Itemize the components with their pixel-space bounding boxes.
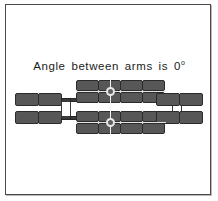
lower-revolute-joint: [106, 118, 115, 127]
caption-text: Angle between arms is 0: [33, 60, 181, 72]
core-block: [120, 123, 143, 134]
core-block: [120, 92, 143, 103]
left-arm-block: [38, 93, 62, 106]
mechanism-diagram: [6, 79, 212, 143]
left-connector-block: [61, 101, 71, 117]
core-block: [142, 123, 165, 134]
right-arm-block: [156, 93, 180, 106]
figure-caption: Angle between arms is 0o: [6, 59, 212, 72]
right-arm-block: [179, 93, 203, 106]
right-arm-block: [179, 111, 203, 124]
left-arm-block: [15, 93, 39, 106]
horizontal-axis-line: [76, 122, 166, 123]
core-block: [142, 80, 165, 91]
figure-panel: Angle between arms is 0o: [5, 4, 211, 195]
core-block: [76, 92, 99, 103]
core-block: [76, 123, 99, 134]
horizontal-axis-line: [76, 91, 166, 92]
upper-revolute-joint: [106, 87, 115, 96]
left-arm-block: [38, 111, 62, 124]
core-block: [120, 80, 143, 91]
core-block: [120, 111, 143, 122]
degree-symbol: o: [181, 59, 185, 66]
core-block: [76, 80, 99, 91]
left-arm-block: [15, 111, 39, 124]
core-block: [76, 111, 99, 122]
